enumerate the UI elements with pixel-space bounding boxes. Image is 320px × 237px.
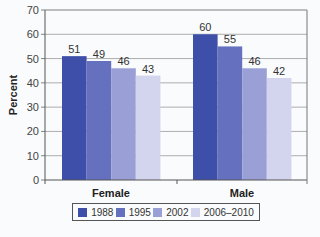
y-axis-label: Percent [7,74,19,115]
data-label: 51 [68,43,80,55]
bar-female-1995 [87,61,112,180]
y-tick-label: 30 [27,101,39,113]
legend-item: 2006–2010 [191,207,254,218]
bar-chart: 010203040506070 5149464360554642 FemaleM… [0,0,320,237]
legend-label: 1988 [91,207,113,218]
legend-item: 1988 [78,207,113,218]
bar-male-2002 [242,68,267,180]
data-label: 46 [248,55,260,67]
data-label: 46 [117,55,129,67]
y-tick-label: 60 [27,28,39,40]
bar-male-1995 [218,46,243,180]
legend-item: 1995 [116,207,151,218]
legend-label: 1995 [129,207,151,218]
legend-swatch [78,208,87,217]
bar-male-2006–2010 [267,78,292,180]
y-tick-label: 20 [27,125,39,137]
x-category-label: Female [92,187,130,199]
data-label: 43 [142,63,154,75]
data-label: 42 [273,65,285,77]
data-label: 60 [199,21,211,33]
y-tick-label: 10 [27,150,39,162]
y-axis-ticks: 010203040506070 [27,4,45,186]
legend-swatch [191,208,200,217]
y-tick-label: 50 [27,53,39,65]
data-label: 49 [93,48,105,60]
bar-female-2002 [111,68,136,180]
legend-swatch [153,208,162,217]
x-category-label: Male [230,187,254,199]
bar-female-1988 [62,56,87,180]
data-label: 55 [224,33,236,45]
legend-item: 2002 [153,207,188,218]
bar-female-2006–2010 [136,76,161,180]
legend-swatch [116,208,125,217]
y-tick-label: 0 [33,174,39,186]
legend: 1988199520022006–2010 [72,203,260,221]
y-tick-label: 70 [27,4,39,16]
y-tick-label: 40 [27,77,39,89]
legend-label: 2002 [166,207,188,218]
bar-male-1988 [193,34,218,180]
legend-label: 2006–2010 [204,207,254,218]
x-axis-categories: FemaleMale [92,187,254,199]
